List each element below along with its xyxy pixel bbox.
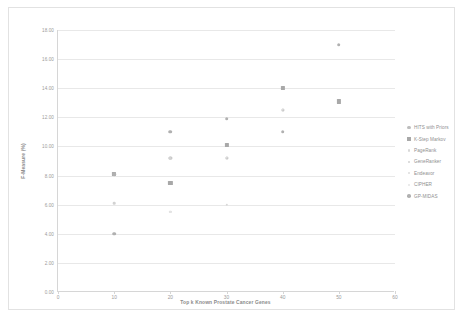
data-point <box>169 130 173 134</box>
data-point <box>225 117 229 121</box>
y-tick-label: 12.00 <box>42 115 54 120</box>
data-point <box>168 181 172 185</box>
legend-item[interactable]: K-Step Markov <box>405 133 463 144</box>
gridline <box>58 59 395 60</box>
x-tick <box>227 291 228 294</box>
gridline <box>58 234 395 235</box>
circle-marker-icon <box>405 149 413 151</box>
gridline <box>58 263 395 264</box>
circle-marker-icon <box>405 184 413 186</box>
y-tick-label: 6.00 <box>45 202 54 207</box>
y-tick-label: 14.00 <box>42 86 54 91</box>
legend-label: HITS with Priors <box>414 125 449 130</box>
legend-item[interactable]: GP-MIDAS <box>405 190 463 201</box>
x-tick <box>395 291 396 294</box>
y-tick-label: 4.00 <box>45 231 54 236</box>
y-tick-label: 18.00 <box>42 28 54 33</box>
legend-label: Endeavor <box>414 171 434 176</box>
x-tick <box>170 291 171 294</box>
data-point <box>337 43 341 47</box>
data-point <box>113 202 116 205</box>
legend-item[interactable]: GeneRanker <box>405 156 463 167</box>
data-point <box>169 211 171 213</box>
legend-item[interactable]: PageRank <box>405 145 463 156</box>
data-point <box>112 232 116 236</box>
x-tick <box>114 291 115 294</box>
legend-item[interactable]: Endeavor <box>405 168 463 179</box>
legend-label: PageRank <box>414 148 436 153</box>
chart-legend: HITS with PriorsK-Step MarkovPageRankGen… <box>405 122 463 202</box>
x-tick <box>58 291 59 294</box>
data-point <box>112 172 116 176</box>
y-tick-label: 2.00 <box>45 260 54 265</box>
x-tick <box>339 291 340 294</box>
gridline <box>58 30 395 31</box>
circle-marker-icon <box>405 194 413 198</box>
chart-figure: 0.002.004.006.008.0010.0012.0014.0016.00… <box>8 7 455 310</box>
circle-marker-icon <box>405 172 413 174</box>
data-point <box>337 99 341 103</box>
y-tick-label: 8.00 <box>45 173 54 178</box>
circle-marker-icon <box>405 126 413 129</box>
legend-label: GeneRanker <box>414 159 441 164</box>
y-tick-label: 16.00 <box>42 57 54 62</box>
legend-label: GP-MIDAS <box>414 194 438 199</box>
square-marker-icon <box>405 137 413 141</box>
y-tick-label: 0.00 <box>45 290 54 295</box>
y-tick-label: 10.00 <box>42 144 54 149</box>
data-point <box>281 86 285 90</box>
legend-item[interactable]: CIPHER <box>405 179 463 190</box>
plot-area: 0.002.004.006.008.0010.0012.0014.0016.00… <box>57 30 394 292</box>
legend-label: K-Step Markov <box>414 137 446 142</box>
y-axis-title: F-Measure (%) <box>21 143 26 178</box>
x-axis-title: Top k Known Prostate Cancer Genes <box>57 300 394 305</box>
data-point <box>169 157 172 160</box>
gridline <box>58 176 395 177</box>
data-point <box>224 143 228 147</box>
legend-label: CIPHER <box>414 182 432 187</box>
legend-item[interactable]: HITS with Priors <box>405 122 463 133</box>
x-tick <box>283 291 284 294</box>
circle-marker-icon <box>405 161 413 164</box>
data-point <box>281 130 285 134</box>
gridline <box>58 88 395 89</box>
